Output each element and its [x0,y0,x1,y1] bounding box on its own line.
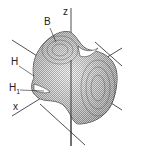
label-H: H [11,57,18,67]
surface-plot [0,0,142,148]
label-H1-subscript: 1 [16,88,20,95]
surface-diagram: B z H H1 x [0,0,142,148]
surface-body [32,32,117,125]
label-x: x [13,102,18,112]
label-z: z [63,7,68,17]
label-H1: H1 [9,83,20,95]
label-B: B [44,17,51,27]
